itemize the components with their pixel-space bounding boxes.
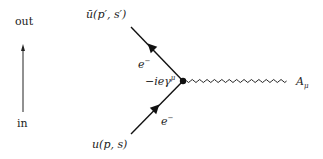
- in-label: in: [17, 118, 28, 129]
- photon-field-index: μ: [304, 82, 309, 90]
- vertex-factor-gamma: γ: [164, 75, 171, 88]
- vertex-factor-index: μ: [171, 74, 176, 82]
- out-label: out: [15, 16, 33, 27]
- outgoing-spinor-label: ū(p′, s′): [86, 9, 126, 20]
- vertex-factor-label: −ieγμ: [145, 75, 175, 87]
- time-arrow-icon: [21, 44, 25, 112]
- outgoing-electron-label: e−: [138, 58, 150, 70]
- incoming-electron-line: [131, 81, 183, 134]
- outgoing-particle-charge: −: [145, 57, 151, 65]
- incoming-particle-charge: −: [168, 114, 174, 122]
- vertex-dot: [180, 78, 186, 84]
- feynman-diagram: out in ū(p′, s′) e− −ieγμ e− u(p, s) Aμ: [0, 0, 323, 159]
- photon-field-label: Aμ: [296, 76, 309, 90]
- incoming-spinor-label: u(p, s): [92, 139, 127, 150]
- outgoing-electron-line: [131, 27, 183, 81]
- outgoing-spinor-args: (p′, s′): [93, 8, 126, 21]
- photon-wavy-line: [183, 80, 287, 83]
- photon-field-symbol: A: [296, 75, 304, 88]
- incoming-electron-label: e−: [161, 115, 173, 127]
- incoming-spinor-args: (p, s): [99, 138, 127, 151]
- vertex-factor-prefix: −ie: [145, 75, 164, 88]
